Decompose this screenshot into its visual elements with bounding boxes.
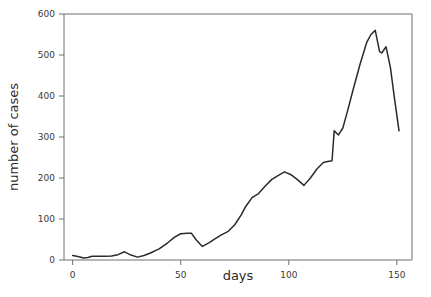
plot-frame: [64, 14, 412, 260]
y-axis-ticks: 0100200300400500600: [38, 9, 64, 265]
x-tick-label: 0: [70, 270, 76, 280]
line-chart: 050100150 0100200300400500600 days numbe…: [0, 0, 431, 297]
x-tick-label: 50: [175, 270, 187, 280]
y-tick-label: 200: [38, 173, 55, 183]
y-tick-label: 0: [49, 255, 55, 265]
x-axis-title: days: [223, 268, 254, 283]
y-axis-title: number of cases: [6, 83, 21, 191]
data-series-line: [73, 30, 399, 258]
chart-figure: 050100150 0100200300400500600 days numbe…: [0, 0, 431, 297]
y-tick-label: 100: [38, 214, 55, 224]
x-tick-label: 100: [280, 270, 297, 280]
y-tick-label: 500: [38, 50, 55, 60]
plot-border: [64, 14, 412, 260]
y-tick-label: 300: [38, 132, 55, 142]
y-tick-label: 600: [38, 9, 55, 19]
y-tick-label: 400: [38, 91, 55, 101]
x-tick-label: 150: [388, 270, 405, 280]
data-series-group: [73, 30, 399, 258]
